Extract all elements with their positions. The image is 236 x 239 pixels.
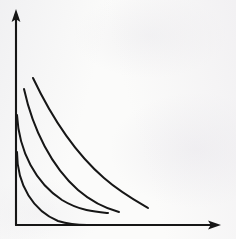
curve-3 [24, 89, 119, 212]
curve-series-group [17, 78, 148, 225]
figure-container [0, 0, 236, 239]
chart-canvas [0, 0, 236, 239]
y-axis [12, 9, 21, 225]
curve-4-outermost [33, 78, 148, 208]
x-axis [16, 221, 221, 230]
